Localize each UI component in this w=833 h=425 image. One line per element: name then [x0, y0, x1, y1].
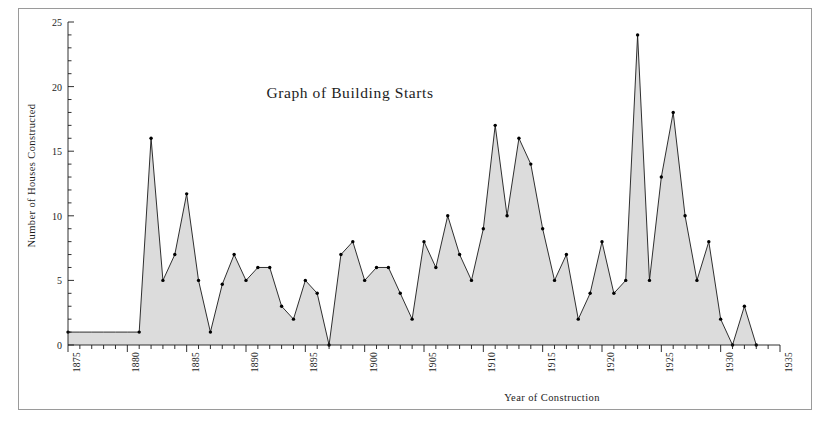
y-tick-label: 0 [32, 340, 62, 351]
area-series [68, 35, 756, 345]
x-tick-label: 1885 [191, 352, 201, 372]
plot-area: 0510152025 18751880188518901895190019051… [0, 0, 833, 425]
y-tick-label: 10 [32, 210, 62, 221]
x-tick-label: 1890 [250, 352, 260, 372]
y-tick-label: 5 [32, 275, 62, 286]
x-tick-label: 1900 [369, 352, 379, 372]
x-tick-label: 1875 [72, 352, 82, 372]
x-tick-label: 1930 [725, 352, 735, 372]
y-tick-label: 25 [32, 17, 62, 28]
x-tick-label: 1915 [547, 352, 557, 372]
x-tick-label: 1925 [665, 352, 675, 372]
x-tick-label: 1935 [784, 352, 794, 372]
y-tick-label: 20 [32, 81, 62, 92]
x-tick-label: 1880 [131, 352, 141, 372]
y-axis-title: Number of Houses Constructed [26, 61, 37, 291]
chart-canvas [0, 0, 833, 425]
chart-title: Graph of Building Starts [190, 84, 510, 102]
x-tick-label: 1895 [309, 352, 319, 372]
x-tick-label: 1910 [487, 352, 497, 372]
x-axis-title: Year of Construction [432, 392, 672, 403]
chart-figure: 0510152025 18751880188518901895190019051… [0, 0, 833, 425]
x-tick-label: 1905 [428, 352, 438, 372]
y-tick-label: 15 [32, 146, 62, 157]
x-tick-label: 1920 [606, 352, 616, 372]
